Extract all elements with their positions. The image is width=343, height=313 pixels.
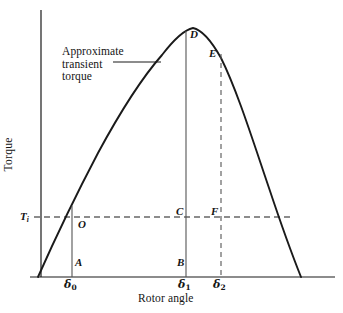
point-label-E-text: E (209, 47, 216, 59)
plot-canvas (0, 0, 343, 313)
input-torque-symbol: T (20, 210, 27, 222)
y-axis-label: Torque (3, 137, 15, 171)
annotation-line-3: torque (62, 70, 124, 83)
x-tick-delta-2: δ2 (213, 279, 226, 291)
point-label-C: C (176, 206, 183, 217)
point-label-B: B (177, 257, 184, 268)
annotation-line-1: Approximate (62, 45, 124, 58)
annotation-line-2: transient (62, 58, 124, 71)
point-label-O-text: O (78, 218, 86, 230)
x-tick-delta-1: δ1 (178, 279, 191, 291)
x-tick-delta-0: δ0 (64, 279, 77, 291)
y-axis-label-text: Torque (2, 137, 14, 171)
point-label-A: A (75, 257, 82, 268)
x-tick-delta-1-symbol: δ (178, 278, 185, 291)
x-tick-delta-2-symbol: δ (213, 278, 220, 291)
point-label-F: F (211, 206, 218, 217)
x-tick-delta-0-subscript: 0 (72, 283, 77, 292)
x-axis-label-text: Rotor angle (138, 292, 194, 304)
point-label-F-text: F (211, 205, 218, 217)
point-label-C-text: C (176, 205, 183, 217)
x-tick-delta-1-subscript: 1 (186, 283, 191, 292)
point-label-A-text: A (75, 256, 82, 268)
point-label-D-text: D (190, 28, 198, 40)
point-label-O: O (78, 219, 86, 230)
annotation-approximate-transient-torque: Approximate transient torque (62, 45, 124, 83)
x-tick-delta-0-symbol: δ (64, 278, 71, 291)
power-angle-diagram: Approximate transient torque Torque Roto… (0, 0, 343, 313)
x-axis-label: Rotor angle (138, 293, 194, 305)
point-label-E: E (209, 48, 216, 59)
point-label-B-text: B (177, 256, 184, 268)
input-torque-label: Ti (20, 211, 29, 223)
point-label-D: D (190, 29, 198, 40)
x-tick-delta-2-subscript: 2 (221, 283, 226, 292)
input-torque-subscript: i (27, 215, 29, 224)
